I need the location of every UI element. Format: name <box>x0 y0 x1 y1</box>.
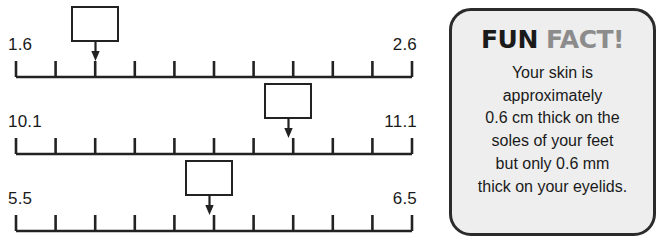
number-line-2-start-label: 10.1 <box>8 113 42 130</box>
fun-fact-card: FUN FACT! Your skin is approximately 0.6… <box>449 8 656 236</box>
fun-fact-body-line-5: but only 0.6 mm <box>464 153 641 176</box>
worksheet: 1.6 2.6 <box>0 0 665 243</box>
number-line-2-answer-box[interactable] <box>264 83 312 119</box>
number-line-1-pointer-arrow-icon <box>89 40 102 62</box>
fun-fact-title-word-1: FUN <box>481 25 538 54</box>
number-line-1-answer-box[interactable] <box>71 6 119 42</box>
number-line-1-start-label: 1.6 <box>8 36 32 53</box>
number-line-1: 1.6 2.6 <box>0 0 435 81</box>
fun-fact-body-line-6: thick on your eyelids. <box>464 176 641 199</box>
number-line-1-end-label: 2.6 <box>393 36 417 53</box>
number-line-3-pointer-arrow-icon <box>203 194 216 216</box>
number-line-3-answer-box[interactable] <box>185 160 233 196</box>
number-line-3-start-label: 5.5 <box>8 190 32 207</box>
fun-fact-body-line-3: 0.6 cm thick on the <box>464 107 641 130</box>
fun-fact-title-word-2: FACT! <box>546 25 624 54</box>
fun-fact-body-line-1: Your skin is <box>464 62 641 85</box>
number-line-2: 10.1 11.1 <box>0 77 435 158</box>
number-line-2-end-label: 11.1 <box>384 113 417 130</box>
number-line-3-end-label: 6.5 <box>393 190 417 207</box>
fun-fact-body: Your skin is approximately 0.6 cm thick … <box>464 62 641 198</box>
number-line-3: 5.5 6.5 <box>0 154 435 235</box>
fun-fact-body-line-2: approximately <box>464 85 641 108</box>
fun-fact-body-line-4: soles of your feet <box>464 130 641 153</box>
fun-fact-title: FUN FACT! <box>464 27 641 52</box>
number-lines-group: 1.6 2.6 <box>0 0 435 243</box>
number-line-2-pointer-arrow-icon <box>282 117 295 139</box>
number-line-3-axis <box>0 209 435 235</box>
